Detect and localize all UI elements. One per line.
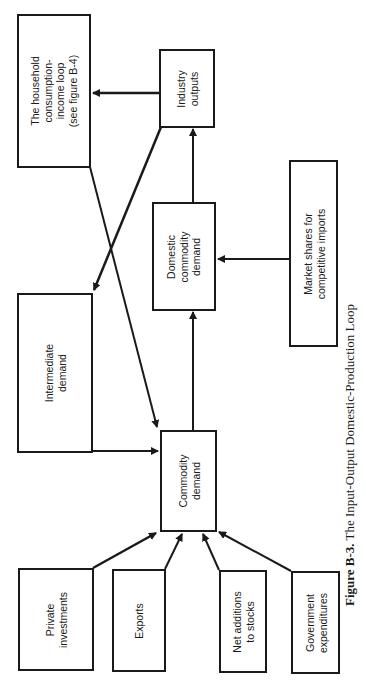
node-market-shares: Market shares for competitive imports: [289, 160, 338, 347]
figure-title: The Input-Output Domestic-Production Loo…: [342, 304, 357, 541]
node-net-additions-to-stocks: Net additions to stocks: [219, 570, 267, 673]
figure-caption: Figure B-3. The Input-Output Domestic-Pr…: [342, 304, 358, 606]
node-label: Industry outputs: [175, 70, 200, 107]
arrow-household-to-commodity: [90, 167, 157, 427]
node-label: Exports: [133, 603, 146, 639]
node-label: Private investments: [44, 591, 69, 647]
arrow-private-to-commodity: [93, 533, 156, 568]
figure-number: Figure B-3.: [342, 543, 357, 606]
node-government-expenditures: Government expenditures: [291, 571, 340, 674]
node-domestic-commodity-demand: Domestic commodity demand: [152, 202, 216, 311]
node-household-loop: The household consumption- income loop (…: [17, 14, 91, 168]
node-label: Net additions to stocks: [231, 591, 256, 652]
node-exports: Exports: [112, 569, 166, 672]
node-label: Intermediate demand: [43, 344, 68, 402]
arrow-net-additions-to-commodity: [203, 534, 219, 570]
node-label: Market shares for competitive imports: [301, 208, 326, 298]
arrow-government-to-commodity: [219, 532, 291, 571]
node-label: Government expenditures: [303, 592, 328, 652]
arrow-industry-to-intermediate: [94, 127, 161, 290]
node-label: The household consumption- income loop (…: [29, 55, 79, 127]
node-label: Domestic commodity demand: [165, 231, 203, 282]
node-label: Commodity demand: [176, 454, 201, 507]
node-commodity-demand: Commodity demand: [160, 430, 217, 532]
node-private-investments: Private investments: [18, 568, 94, 671]
node-industry-outputs: Industry outputs: [159, 49, 215, 128]
node-intermediate-demand: Intermediate demand: [17, 293, 93, 453]
arrow-exports-to-commodity: [165, 534, 182, 569]
